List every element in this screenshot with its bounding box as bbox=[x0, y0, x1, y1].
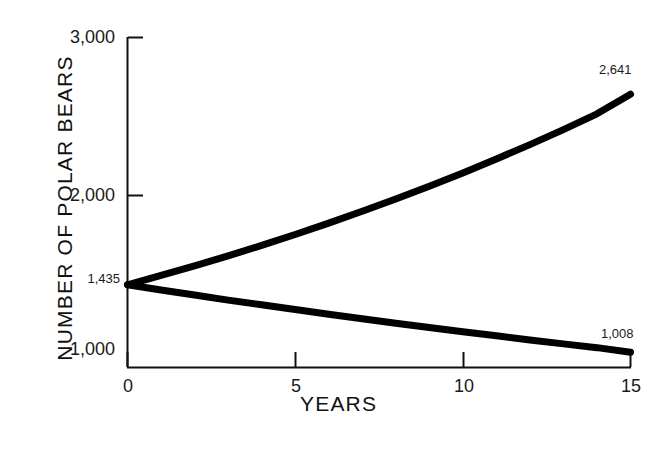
y-tick-label-3000: 3,000 bbox=[10, 27, 115, 48]
polar-bear-population-chart: NUMBER OF POLAR BEARS YEARS 3,000 2,000 … bbox=[0, 0, 662, 449]
chart-plot-area bbox=[0, 0, 662, 449]
y-tick-label-2000: 2,000 bbox=[10, 185, 115, 206]
y-tick-label-1435: 1,435 bbox=[10, 271, 120, 286]
decreasing-projection-curve bbox=[128, 285, 631, 352]
increasing-projection-curve bbox=[128, 94, 631, 285]
x-tick-label-0: 0 bbox=[108, 376, 148, 397]
data-label-2641: 2,641 bbox=[599, 62, 632, 77]
y-axis-title: NUMBER OF POLAR BEARS bbox=[53, 38, 77, 378]
x-tick-label-15: 15 bbox=[611, 376, 651, 397]
data-label-1008: 1,008 bbox=[601, 326, 634, 341]
y-tick-label-1000: 1,000 bbox=[10, 339, 115, 360]
x-tick-label-10: 10 bbox=[444, 376, 484, 397]
x-tick-label-5: 5 bbox=[276, 376, 316, 397]
